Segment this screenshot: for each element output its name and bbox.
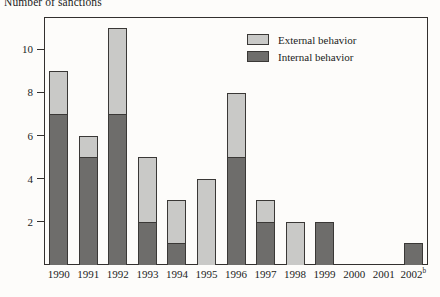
- bar-group: [49, 71, 68, 265]
- bar-segment-external: [108, 28, 127, 114]
- bar-group: [79, 136, 98, 265]
- bar-segment-internal: [167, 243, 186, 265]
- x-axis-tick-label: 1999: [310, 268, 340, 280]
- x-axis-tick-label: 1990: [44, 268, 74, 280]
- bar-segment-internal: [256, 222, 275, 265]
- x-axis-tick-label: 1996: [221, 268, 251, 280]
- bar-group: [227, 92, 246, 265]
- y-axis-tick-mark: [37, 178, 44, 179]
- bars-layer: [44, 17, 428, 265]
- x-axis-tick-label: 1997: [251, 268, 281, 280]
- bar-segment-external: [197, 179, 216, 265]
- x-axis-tick-label: 1994: [162, 268, 192, 280]
- x-axis-tick-label: 1991: [74, 268, 104, 280]
- bar-group: [404, 243, 423, 265]
- bar-segment-external: [256, 200, 275, 222]
- legend-swatch-internal: [247, 51, 269, 62]
- x-axis-label-footnote-marker: b: [422, 267, 426, 275]
- chart-legend: External behaviorInternal behavior: [240, 26, 365, 70]
- x-axis-tick-label: 1998: [280, 268, 310, 280]
- bar-segment-internal: [138, 222, 157, 265]
- bar-segment-external: [49, 71, 68, 114]
- bar-segment-external: [167, 200, 186, 243]
- x-axis-tick-label: 1992: [103, 268, 133, 280]
- bar-segment-internal: [108, 114, 127, 265]
- y-axis-tick-label: 2: [28, 214, 34, 230]
- bar-group: [138, 157, 157, 265]
- bar-segment-internal: [315, 222, 334, 265]
- y-axis-tick-mark: [37, 221, 44, 222]
- bar-group: [197, 179, 216, 265]
- y-axis-tick-mark: [37, 92, 44, 93]
- y-axis-tick-label: 10: [22, 41, 33, 57]
- y-axis-tick-mark: [37, 135, 44, 136]
- bar-segment-external: [138, 157, 157, 222]
- legend-item: External behavior: [247, 31, 357, 48]
- bar-group: [108, 28, 127, 265]
- x-axis: 1990199119921993199419951996199719981999…: [44, 268, 428, 290]
- sanctions-bar-chart: Number of sanctions 246810 1990199119921…: [0, 0, 440, 297]
- y-axis-tick-mark: [37, 49, 44, 50]
- bar-group: [286, 222, 305, 265]
- bar-segment-external: [227, 93, 246, 158]
- x-axis-tick-label: 2000: [339, 268, 369, 280]
- bar-segment-external: [286, 222, 305, 265]
- y-axis-tick-label: 4: [28, 171, 34, 187]
- y-axis: 246810: [0, 17, 44, 265]
- x-axis-tick-label: 2002b: [398, 268, 428, 280]
- bar-group: [256, 200, 275, 265]
- legend-label: External behavior: [278, 34, 357, 46]
- legend-label: Internal behavior: [278, 51, 353, 63]
- bar-segment-internal: [404, 243, 423, 265]
- y-axis-tick-label: 6: [28, 128, 34, 144]
- bar-group: [315, 222, 334, 265]
- chart-title: Number of sanctions: [4, 0, 102, 8]
- x-axis-tick-label: 2001: [369, 268, 399, 280]
- bar-group: [167, 200, 186, 265]
- x-axis-tick-label: 1995: [192, 268, 222, 280]
- legend-item: Internal behavior: [247, 48, 357, 65]
- bar-segment-external: [79, 136, 98, 158]
- x-axis-tick-label: 1993: [133, 268, 163, 280]
- legend-swatch-external: [247, 34, 269, 45]
- bar-segment-internal: [227, 157, 246, 265]
- bar-segment-internal: [49, 114, 68, 265]
- y-axis-tick-label: 8: [28, 84, 34, 100]
- bar-segment-internal: [79, 157, 98, 265]
